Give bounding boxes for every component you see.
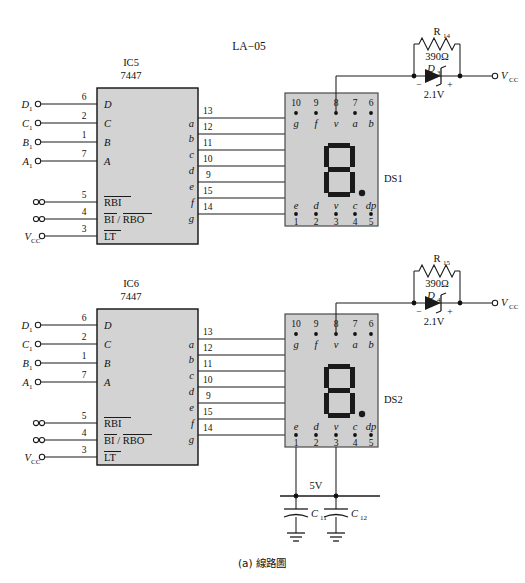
port-label-LT: LT bbox=[104, 231, 116, 242]
control-terminal-RBI-2-outer[interactable] bbox=[33, 420, 38, 425]
capacitor-c12[interactable]: C 12 bbox=[324, 496, 368, 541]
ds2-bot-dot-4 bbox=[353, 433, 357, 437]
pin-number-4: 4 bbox=[82, 207, 87, 217]
input-terminal-A[interactable] bbox=[35, 158, 40, 163]
control-terminal-RBI-outer[interactable] bbox=[33, 199, 38, 204]
ds1-designator: DS1 bbox=[384, 173, 403, 184]
out-pin-14-2: 14 bbox=[203, 423, 213, 433]
control-label-VCC-2-sub: CC bbox=[31, 458, 41, 466]
out-port-d: d bbox=[189, 165, 195, 176]
ds2-top-label-a: a bbox=[352, 339, 357, 350]
ds2-seg-e bbox=[324, 393, 329, 414]
control-terminal-RBI-2-inner[interactable] bbox=[39, 420, 44, 425]
out-port-e: e bbox=[189, 181, 194, 192]
input-terminal-B[interactable] bbox=[35, 139, 40, 144]
ic5-output-d[interactable]: d 10 bbox=[189, 154, 285, 176]
figure-caption: (a) 線路圖 bbox=[238, 557, 286, 569]
input-terminal-A-2[interactable] bbox=[35, 379, 40, 384]
ds2-bot-pin-2: 2 bbox=[314, 438, 319, 448]
ds1-bot-pin-2: 2 bbox=[314, 217, 319, 227]
ds2-bot-dot-2 bbox=[314, 433, 318, 437]
ds2-top-label-g: g bbox=[293, 339, 298, 350]
out-pin-10-2: 10 bbox=[203, 375, 213, 385]
d3-value: 2.1V bbox=[424, 89, 445, 100]
ds2-seg-g bbox=[328, 388, 350, 393]
ds1-top-dot-10 bbox=[294, 111, 298, 115]
ds2-body[interactable] bbox=[285, 314, 378, 447]
control-terminal-BI-inner[interactable] bbox=[39, 216, 44, 221]
vcc-terminal-stage2[interactable] bbox=[492, 300, 497, 305]
input-label-A-2-sub: 1 bbox=[29, 383, 33, 391]
r14-ref: R bbox=[433, 26, 440, 37]
figure-title: LA−05 bbox=[232, 40, 266, 52]
d3-node-left bbox=[412, 74, 417, 79]
pin-number-5-2: 5 bbox=[82, 411, 87, 421]
ds1-bot-dot-1 bbox=[294, 212, 298, 216]
port-label-B-2: B bbox=[104, 358, 111, 369]
ds1-body[interactable] bbox=[285, 93, 378, 226]
control-terminal-RBI-inner[interactable] bbox=[39, 199, 44, 204]
input-label-B-sub: 1 bbox=[29, 143, 33, 151]
ds2-top-label-v: v bbox=[334, 339, 339, 350]
ds2-seg-d bbox=[328, 413, 350, 418]
ic6-output-d[interactable]: d 10 bbox=[189, 375, 285, 397]
ds2-bot-label-e: e bbox=[294, 421, 299, 432]
ds2-top-dot-6 bbox=[369, 332, 373, 336]
ds2-top-label-b: b bbox=[368, 339, 373, 350]
port-label-D-2: D bbox=[103, 320, 112, 331]
ds1-bot-label-c: c bbox=[353, 200, 358, 211]
r15-resistor-symbol[interactable] bbox=[414, 265, 460, 277]
ds1-top-label-v: v bbox=[334, 118, 339, 129]
ic5-output-g[interactable]: g 14 bbox=[189, 202, 285, 224]
c11-ref: C bbox=[311, 508, 319, 519]
control-terminal-LT-2[interactable] bbox=[39, 454, 44, 459]
ds1-seg-a bbox=[328, 143, 350, 148]
ic5-part-number: 7447 bbox=[121, 70, 142, 81]
power-rail-section: 5V C 11 bbox=[280, 447, 380, 541]
ds1-seg-e bbox=[324, 172, 329, 193]
input-terminal-B-2[interactable] bbox=[35, 360, 40, 365]
out-pin-10: 10 bbox=[203, 154, 213, 164]
pin-number-6: 6 bbox=[82, 92, 87, 102]
ds2-bot-pin-5: 5 bbox=[369, 438, 374, 448]
ds2-seg-a bbox=[328, 364, 350, 369]
ic6-output-g[interactable]: g 14 bbox=[189, 423, 285, 445]
input-terminal-D[interactable] bbox=[35, 101, 40, 106]
ds1-top-label-g: g bbox=[293, 118, 298, 129]
out-port-g: g bbox=[189, 213, 194, 224]
ds2-top-pin-7: 7 bbox=[353, 319, 358, 329]
out-port-a: a bbox=[189, 118, 194, 129]
r14-resistor-symbol[interactable] bbox=[414, 38, 460, 50]
ds1-top-pin-6: 6 bbox=[369, 98, 374, 108]
input-terminal-D-2[interactable] bbox=[35, 322, 40, 327]
input-terminal-C[interactable] bbox=[35, 120, 40, 125]
input-terminal-C-2[interactable] bbox=[35, 341, 40, 346]
schematic-canvas: LA−05 IC5 7447 D 1 6 D C 1 bbox=[0, 0, 525, 583]
d4-minus-sign: − bbox=[416, 307, 421, 317]
ds1-bot-dot-5 bbox=[369, 212, 373, 216]
r15-value: 390Ω bbox=[425, 278, 449, 289]
pin-number-1-2: 1 bbox=[82, 351, 87, 361]
ds2-bot-dot-1 bbox=[294, 433, 298, 437]
circuit-diagram-figure: LA−05 IC5 7447 D 1 6 D C 1 bbox=[0, 0, 525, 583]
control-terminal-BI-2-inner[interactable] bbox=[39, 437, 44, 442]
r14-value: 390Ω bbox=[425, 51, 449, 62]
input-label-C-sub: 1 bbox=[29, 124, 33, 132]
ds1-decimal-point bbox=[359, 190, 365, 196]
port-label-BI-RBO-2: BI / RBO bbox=[104, 435, 145, 446]
control-terminal-BI-outer[interactable] bbox=[33, 216, 38, 221]
pin-number-3: 3 bbox=[82, 224, 87, 234]
out-pin-13-2: 13 bbox=[203, 327, 213, 337]
control-terminal-LT[interactable] bbox=[39, 233, 44, 238]
ds2-top-dot-10 bbox=[294, 332, 298, 336]
ds2-seg-b bbox=[350, 367, 355, 388]
port-label-A: A bbox=[103, 156, 111, 167]
d3-minus-sign: − bbox=[416, 80, 421, 90]
out-port-e-2: e bbox=[189, 402, 194, 413]
control-terminal-BI-2-outer[interactable] bbox=[33, 437, 38, 442]
port-label-RBI: RBI bbox=[104, 197, 122, 208]
port-label-RBI-2: RBI bbox=[104, 418, 122, 429]
capacitor-c11[interactable]: C 11 bbox=[284, 496, 327, 541]
vcc-terminal-stage1[interactable] bbox=[492, 73, 497, 78]
input-label-D-sub: 1 bbox=[29, 105, 33, 113]
